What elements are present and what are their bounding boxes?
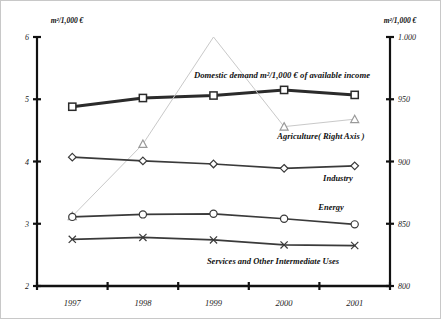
x-axis-tick-label: 1998 [134, 298, 152, 308]
left-axis-tick-label: 2 [25, 282, 29, 291]
series-line-4 [72, 237, 354, 245]
series-marker-0 [210, 92, 217, 99]
series-line-1 [72, 37, 354, 216]
series-marker-0 [69, 103, 76, 110]
series-marker-0 [351, 91, 358, 98]
series-label-agriculture: Agriculture( Right Axis ) [276, 131, 364, 141]
series-label-services: Services and Other Intermediate Uses [207, 256, 340, 266]
x-axis-tick-label: 2001 [346, 298, 363, 308]
series-marker-0 [281, 86, 288, 93]
line-chart-canvas: 61.0005950490038502800199719981999200020… [1, 1, 441, 319]
series-marker-2 [210, 160, 218, 168]
x-axis-tick-label: 1999 [205, 298, 223, 308]
series-marker-3 [210, 210, 217, 217]
series-label-domestic-demand: Domestic demand m²/1,000 € of available … [193, 70, 370, 80]
left-axis-tick-label: 4 [25, 158, 29, 167]
series-marker-3 [351, 221, 358, 228]
series-marker-2 [139, 157, 147, 165]
series-marker-0 [139, 94, 146, 101]
left-axis-tick-label: 5 [25, 95, 29, 104]
series-marker-2 [351, 162, 359, 170]
series-marker-1 [351, 115, 359, 122]
series-marker-2 [69, 153, 77, 161]
right-axis-tick-label: 900 [398, 158, 410, 167]
series-marker-3 [281, 215, 288, 222]
series-marker-2 [280, 165, 288, 173]
left-axis-tick-label: 3 [24, 220, 29, 229]
series-label-energy: Energy [317, 202, 344, 212]
right-axis-tick-label: 800 [398, 282, 410, 291]
series-label-industry: Industry [322, 173, 353, 183]
series-marker-3 [69, 213, 76, 220]
right-axis-tick-label: 950 [398, 95, 410, 104]
left-axis-unit-label: m²/1,000 € [51, 16, 84, 25]
series-marker-3 [139, 211, 146, 218]
series-marker-1 [139, 140, 147, 147]
x-axis-tick-label: 2000 [276, 298, 294, 308]
right-axis-tick-label: 1.000 [398, 33, 416, 42]
left-axis-tick-label: 6 [25, 33, 29, 42]
chart-figure: 61.0005950490038502800199719981999200020… [0, 0, 441, 319]
right-axis-unit-label: m²/1,000 € [384, 16, 417, 25]
right-axis-tick-label: 850 [398, 220, 410, 229]
x-axis-tick-label: 1997 [64, 298, 82, 308]
